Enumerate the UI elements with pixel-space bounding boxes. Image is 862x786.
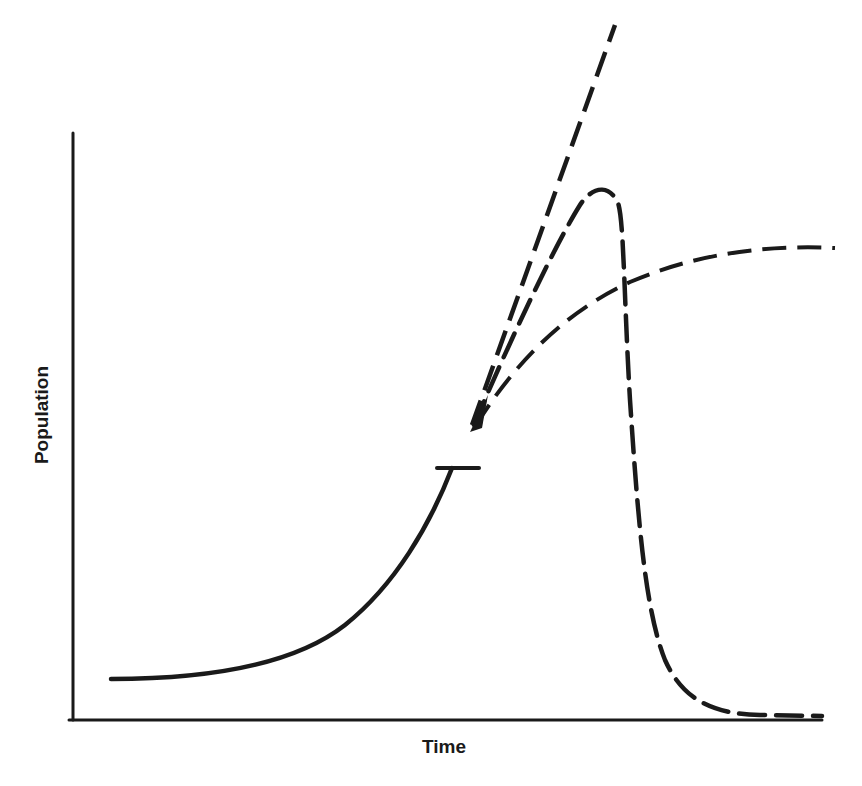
y-axis-label: Population	[31, 366, 53, 464]
logistic-line	[476, 247, 835, 425]
observed-growth-line	[111, 468, 452, 679]
x-axis-label: Time	[422, 736, 466, 758]
population-chart	[0, 0, 862, 786]
axes	[69, 133, 822, 720]
exponential-line	[472, 25, 615, 425]
